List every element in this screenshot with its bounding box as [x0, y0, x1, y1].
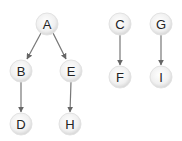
edge-e-h [70, 82, 71, 112]
node-label: B [17, 64, 26, 79]
node-label: D [16, 117, 25, 132]
node-label: A [43, 17, 52, 32]
node-i[interactable]: I [150, 66, 172, 88]
node-label: I [159, 70, 163, 85]
node-label: C [115, 17, 124, 32]
node-f[interactable]: F [109, 66, 131, 88]
node-e[interactable]: E [60, 60, 82, 82]
edge-a-e [53, 33, 66, 59]
node-c[interactable]: C [109, 13, 131, 35]
node-b[interactable]: B [10, 60, 32, 82]
node-h[interactable]: H [59, 113, 81, 135]
node-g[interactable]: G [150, 13, 172, 35]
node-label: E [67, 64, 76, 79]
edge-a-b [27, 33, 41, 59]
node-a[interactable]: A [36, 13, 58, 35]
node-d[interactable]: D [10, 113, 32, 135]
node-label: F [116, 70, 124, 85]
edges [21, 33, 161, 112]
graph-canvas: A B E D H C G F I [0, 0, 182, 141]
node-label: H [65, 117, 74, 132]
node-label: G [156, 17, 166, 32]
